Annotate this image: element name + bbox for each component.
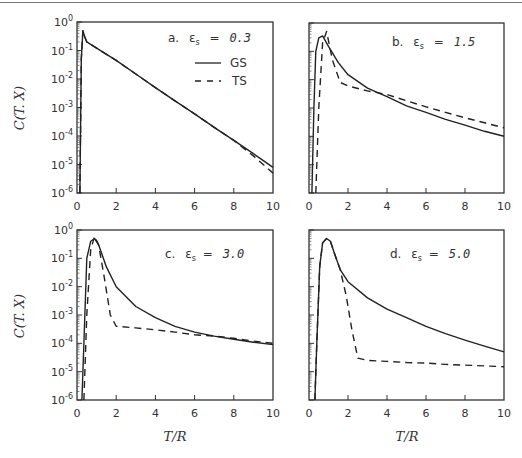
y-axis-label-bottom: C(T. X) <box>12 294 27 338</box>
x-tick-label: 10 <box>266 407 280 420</box>
y-tick-label: 10-3 <box>51 100 73 115</box>
y-tick-label: 10-6 <box>51 392 73 407</box>
x-tick-label: 0 <box>74 200 81 213</box>
x-tick-label: 10 <box>497 200 511 213</box>
x-tick-label: 0 <box>74 407 81 420</box>
x-tick-label: 10 <box>497 407 511 420</box>
panel-d: 0246810 d. εs = 5.0 <box>306 230 512 420</box>
panel-a-curves <box>80 31 273 193</box>
x-tick-label: 8 <box>230 200 237 213</box>
series-gs-line <box>312 36 504 193</box>
panel-c: 10-610-510-410-310-210-1100 0246810 c. ε… <box>51 222 280 420</box>
panel-a-xticks: 0246810 <box>74 188 281 213</box>
x-tick-label: 6 <box>423 200 430 213</box>
panel-a-frame <box>77 22 273 193</box>
y-tick-label: 10-4 <box>51 128 73 143</box>
panel-d-curves <box>315 239 504 401</box>
panel-b-curves <box>312 32 504 194</box>
x-axis-label-right: T/R <box>396 429 419 444</box>
panel-a-label: a. εs = 0.3 <box>168 31 251 48</box>
y-axis-label-top: C(T. X) <box>12 86 27 130</box>
x-tick-label: 4 <box>384 407 391 420</box>
x-tick-label: 10 <box>266 200 280 213</box>
x-tick-label: 4 <box>152 407 159 420</box>
y-tick-label: 10-5 <box>51 364 73 379</box>
x-tick-label: 4 <box>384 200 391 213</box>
x-tick-label: 2 <box>113 200 120 213</box>
panel-d-frame <box>309 230 504 400</box>
y-tick-label: 10-4 <box>51 335 73 350</box>
series-gs-line <box>82 239 273 401</box>
x-tick-label: 2 <box>113 407 120 420</box>
x-tick-label: 8 <box>462 407 469 420</box>
x-tick-label: 2 <box>345 407 352 420</box>
series-gs-line <box>80 31 273 193</box>
x-tick-label: 8 <box>230 407 237 420</box>
x-tick-label: 2 <box>345 200 352 213</box>
panel-d-xticks: 0246810 <box>306 395 512 420</box>
panel-d-label: d. εs = 5.0 <box>390 247 470 264</box>
x-tick-label: 6 <box>191 407 198 420</box>
x-axis-label-left: T/R <box>164 429 187 444</box>
x-tick-label: 8 <box>462 200 469 213</box>
y-tick-label: 10-3 <box>51 307 73 322</box>
panel-d-yticks <box>309 230 314 400</box>
series-ts-line <box>316 32 504 194</box>
y-tick-label: 100 <box>54 222 73 237</box>
panel-b-label: b. εs = 1.5 <box>392 35 475 52</box>
legend-ts-label: TS <box>231 74 247 88</box>
y-tick-label: 10-2 <box>51 279 73 294</box>
x-tick-label: 6 <box>191 200 198 213</box>
y-tick-label: 10-2 <box>51 71 73 86</box>
y-tick-label: 10-5 <box>51 157 73 172</box>
series-ts-line <box>80 31 273 193</box>
x-tick-label: 4 <box>152 200 159 213</box>
y-tick-label: 10-1 <box>51 250 73 265</box>
series-gs-line <box>315 239 504 401</box>
y-tick-label: 10-1 <box>51 43 73 58</box>
y-tick-label: 10-6 <box>51 185 73 200</box>
y-tick-label: 100 <box>54 14 73 29</box>
panel-a: 10-610-510-410-310-210-1100 0246810 a. ε… <box>51 14 280 213</box>
x-tick-label: 6 <box>423 407 430 420</box>
x-tick-label: 0 <box>306 200 313 213</box>
x-tick-label: 0 <box>306 407 313 420</box>
legend-gs-label: GS <box>230 56 247 70</box>
figure-4-panel-log-plots: 10-610-510-410-310-210-1100 0246810 a. ε… <box>0 0 522 458</box>
panel-c-label: c. εs = 3.0 <box>165 247 244 264</box>
panel-c-xticks: 0246810 <box>74 395 281 420</box>
panel-b: 0246810 b. εs = 1.5 <box>306 23 512 213</box>
panel-b-xticks: 0246810 <box>306 188 512 213</box>
